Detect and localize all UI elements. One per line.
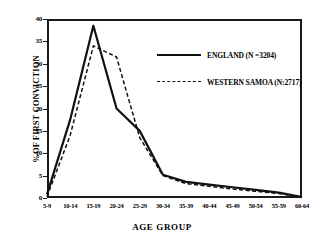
- x-axis-label: AGE GROUP: [0, 222, 324, 232]
- legend-label-england: ENGLAND (N =3204): [207, 51, 276, 60]
- x-tick-label: 5-9: [43, 202, 51, 209]
- solid-line-swatch: [157, 51, 201, 59]
- x-tick-label: 30-34: [156, 202, 170, 209]
- x-tick-label: 20-24: [110, 202, 124, 209]
- x-tick-label: 35-39: [179, 202, 193, 209]
- legend-label-western-samoa: WESTERN SAMOA (N:2717): [207, 78, 301, 87]
- x-tick-label: 15-19: [86, 202, 100, 209]
- x-tick-label: 40-44: [202, 202, 216, 209]
- x-tick-label: 45-49: [225, 202, 239, 209]
- x-tick-label: 55-59: [272, 202, 286, 209]
- x-tick-label: 10-14: [63, 202, 77, 209]
- x-tick-label: 60-64: [295, 202, 309, 209]
- chart-plot-lines: [0, 0, 324, 246]
- x-tick-label: 50-54: [249, 202, 263, 209]
- chart-legend: ENGLAND (N =3204) WESTERN SAMOA (N:2717): [157, 50, 302, 104]
- legend-item-western-samoa: WESTERN SAMOA (N:2717): [157, 77, 302, 87]
- chart-container: %OF FIRST CONVICTION 0510152025303540 5-…: [0, 0, 324, 246]
- legend-item-england: ENGLAND (N =3204): [157, 50, 302, 60]
- dashed-line-swatch: [157, 78, 201, 86]
- x-tick-label: 25-29: [133, 202, 147, 209]
